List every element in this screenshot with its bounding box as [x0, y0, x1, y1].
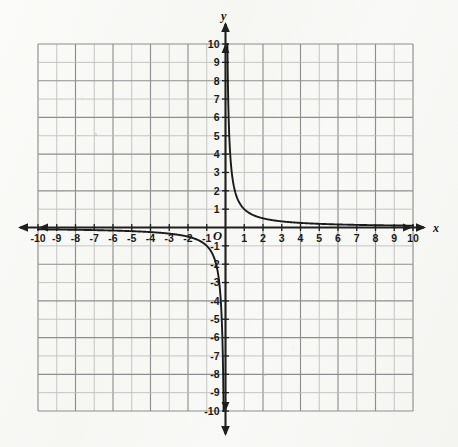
paper-speck: [95, 133, 97, 136]
y-axis-bottom-arrowhead: [221, 426, 230, 436]
x-tick-label: 4: [298, 232, 304, 244]
y-axis-top-arrowhead: [221, 22, 230, 32]
y-tick-label: -7: [210, 350, 219, 362]
x-tick-label: 9: [391, 232, 397, 244]
paper-speck: [263, 374, 266, 376]
x-tick-label: 3: [279, 232, 285, 244]
y-tick-label: -8: [210, 368, 219, 380]
origin-label: O: [213, 229, 222, 243]
x-tick-label: 10: [407, 232, 419, 244]
y-tick-label: 5: [214, 130, 220, 142]
y-tick-label: 9: [214, 56, 220, 68]
x-tick-label: -8: [71, 232, 80, 244]
y-tick-label: 10: [208, 38, 220, 50]
paper-speck: [358, 115, 360, 117]
curve-branch-negative: [38, 229, 224, 411]
x-tick-label: 1: [241, 232, 247, 244]
y-tick-label: 6: [214, 111, 220, 123]
y-tick-label: 4: [214, 148, 220, 160]
x-tick-label: -5: [127, 232, 136, 244]
y-axis-label: y: [219, 9, 227, 23]
y-tick-label: 2: [214, 185, 220, 197]
x-tick-label: 7: [354, 232, 360, 244]
x-tick-label: 5: [316, 232, 322, 244]
x-tick-label: -7: [90, 232, 99, 244]
y-tick-label: 8: [214, 75, 220, 87]
x-tick-label: 8: [373, 232, 379, 244]
coordinate-plane: -10-9-8-7-6-5-4-3-2-11234567891012345678…: [0, 0, 458, 447]
graph-figure: -10-9-8-7-6-5-4-3-2-11234567891012345678…: [0, 0, 458, 447]
y-tick-label: 3: [214, 166, 220, 178]
x-tick-label: -9: [52, 232, 61, 244]
x-axis-label: x: [432, 221, 439, 235]
y-tick-label: -9: [210, 386, 219, 398]
y-tick-label: -5: [210, 313, 219, 325]
x-axis-right-arrowhead: [416, 223, 426, 232]
x-tick-label: -6: [108, 232, 117, 244]
x-tick-label: 2: [260, 232, 266, 244]
x-tick-label: -10: [30, 232, 45, 244]
x-tick-label: 6: [335, 232, 341, 244]
y-tick-label: -2: [210, 258, 219, 270]
y-tick-label: -10: [204, 405, 219, 417]
curve-branch-positive: [227, 44, 413, 226]
y-tick-label: -6: [210, 331, 219, 343]
x-tick-label: -2: [183, 232, 192, 244]
y-tick-label: -3: [210, 276, 219, 288]
y-tick-label: -4: [210, 295, 219, 307]
x-tick-label: -4: [146, 232, 155, 244]
y-tick-label: 1: [214, 203, 220, 215]
x-tick-label: -3: [165, 232, 174, 244]
x-axis-left-arrowhead: [18, 223, 28, 232]
y-tick-label: 7: [214, 93, 220, 105]
